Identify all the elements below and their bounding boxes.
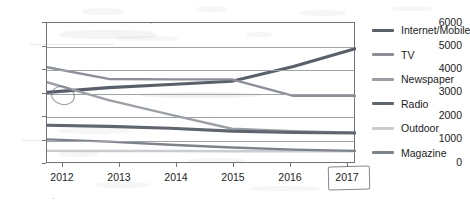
x-tick-label: 2015 [221,172,244,183]
legend-swatch [372,151,394,154]
legend: Internet/Mobile TV Newspaper Radio Outdo… [372,18,460,165]
x-tick-label: 2012 [50,172,73,183]
gridline [47,94,354,95]
legend-swatch [372,53,394,56]
x-tick-label: 2016 [278,172,301,183]
plot-area [46,22,355,163]
x-tick-label: 2013 [107,172,130,183]
legend-label: Magazine [401,148,447,159]
gridline [47,70,354,71]
legend-item-newspaper[interactable]: Newspaper [372,67,460,92]
legend-label: Radio [401,99,428,110]
series-line-radio [47,125,355,133]
legend-label: Newspaper [401,74,454,85]
legend-label: TV [401,50,414,61]
legend-swatch [372,29,394,32]
legend-swatch [372,127,394,130]
legend-label: Outdoor [401,123,439,134]
gridline [47,47,354,48]
gridline [47,117,354,118]
legend-item-magazine[interactable]: Magazine [372,141,460,166]
x-tick-label: 2014 [164,172,187,183]
hand-drawn-box-2017-annotation [328,166,370,191]
legend-label: Internet/Mobile [401,25,470,36]
gridline [47,141,354,142]
legend-item-tv[interactable]: TV [372,43,460,68]
legend-item-outdoor[interactable]: Outdoor [372,116,460,141]
legend-item-internet-mobile[interactable]: Internet/Mobile [372,18,460,43]
legend-item-radio[interactable]: Radio [372,92,460,117]
legend-swatch [372,78,394,81]
legend-swatch [372,102,394,105]
